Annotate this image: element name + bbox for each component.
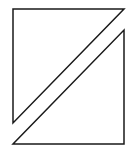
lower-right-triangle bbox=[13, 30, 124, 144]
split-rectangle-diagram bbox=[0, 0, 133, 150]
upper-left-triangle bbox=[13, 9, 124, 123]
